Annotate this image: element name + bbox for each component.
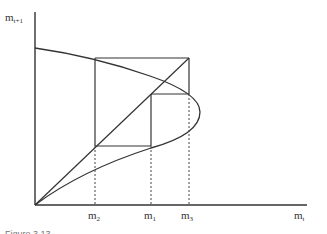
tick-label-m3-base: m [181,209,190,221]
y-axis-label-subscript: t+1 [14,17,23,25]
forty-five-degree-line [35,58,189,205]
tick-label-m2-subscript: 2 [97,215,101,223]
x-axis-label: mt [294,210,305,223]
x-axis-label-subscript: t [303,215,305,223]
y-axis-label-base: m [5,11,14,23]
y-axis-label: mt+1 [5,12,23,25]
tick-label-m1-subscript: 1 [153,215,157,223]
tick-label-m2-base: m [88,209,97,221]
x-axis-label-base: m [294,209,303,221]
phase-diagram-figure: mt+1 mt m2 m1 m3 Figure 3.13 [0,0,327,234]
tick-label-m2: m2 [88,210,100,223]
tick-label-m1: m1 [144,210,156,223]
tick-label-m3: m3 [181,210,193,223]
figure-caption: Figure 3.13 [5,229,51,234]
tick-label-m1-base: m [144,209,153,221]
tick-label-m3-subscript: 3 [190,215,194,223]
phase-diagram-plot [0,0,327,234]
